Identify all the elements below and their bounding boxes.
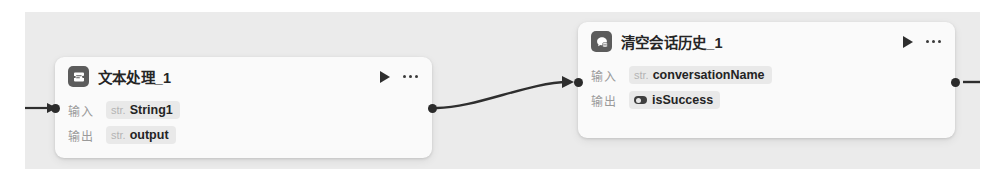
node-header-actions (380, 71, 421, 83)
workflow-canvas-screenshot: 文本处理_1 输入 str. String1 输出 (0, 0, 1002, 185)
node2-input-port[interactable] (574, 78, 583, 87)
text-processing-icon (68, 66, 89, 87)
output-chip[interactable]: str. output (106, 126, 176, 144)
node-input-row: 输入 str. String1 (68, 101, 419, 119)
input-chip[interactable]: str. conversationName (629, 66, 772, 84)
node-input-row: 输入 str. conversationName (591, 66, 942, 84)
type-badge: str. (111, 129, 126, 141)
output-label: 输出 (68, 127, 99, 144)
type-badge: str. (634, 69, 649, 81)
node-header: 清空会话历史_1 (578, 22, 955, 57)
port-name: String1 (130, 103, 173, 117)
port-name: isSuccess (652, 93, 713, 107)
output-chip[interactable]: isSuccess (629, 91, 720, 109)
clear-conversation-icon (591, 31, 612, 52)
node-header: 文本处理_1 (55, 57, 432, 92)
node-clear-conversation-history[interactable]: 清空会话历史_1 输入 str. conversationName (578, 22, 955, 138)
run-node-button[interactable] (380, 71, 390, 83)
node-header-actions (903, 36, 944, 48)
run-node-button[interactable] (903, 36, 913, 48)
more-options-icon[interactable] (926, 36, 941, 47)
port-name: conversationName (653, 68, 765, 82)
port-name: output (130, 128, 169, 142)
input-label: 输入 (68, 102, 99, 119)
node-body: 输入 str. String1 输出 str. output (55, 92, 432, 155)
graph-canvas[interactable]: 文本处理_1 输入 str. String1 输出 (25, 12, 980, 169)
node2-output-port[interactable] (951, 78, 960, 87)
node-output-row: 输出 str. output (68, 126, 419, 144)
input-label: 输入 (591, 67, 622, 84)
output-label: 输出 (591, 92, 622, 109)
node-body: 输入 str. conversationName 输出 isSuccess (578, 57, 955, 120)
node1-input-port[interactable] (51, 104, 60, 113)
type-badge: str. (111, 104, 126, 116)
node1-output-port[interactable] (428, 104, 437, 113)
node-output-row: 输出 isSuccess (591, 91, 942, 109)
node-text-processing[interactable]: 文本处理_1 输入 str. String1 输出 (55, 57, 432, 158)
boolean-type-icon (634, 96, 647, 104)
edge-node1-to-node2[interactable] (437, 76, 574, 108)
more-options-icon[interactable] (403, 71, 418, 82)
node-title: 文本处理_1 (98, 66, 380, 87)
input-chip[interactable]: str. String1 (106, 101, 180, 119)
node-title: 清空会话历史_1 (621, 31, 903, 52)
